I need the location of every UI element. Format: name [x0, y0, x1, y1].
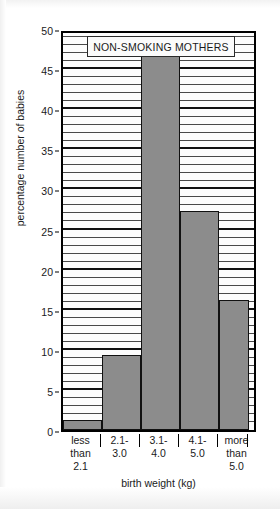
y-axis-ticks: 05101520253035404550 [28, 31, 59, 432]
x-category-line: 2.1- [100, 434, 139, 447]
x-category-line: 4.0 [139, 447, 178, 460]
y-tick-mark [55, 351, 59, 352]
bar [141, 53, 180, 430]
y-tick-label: 35 [41, 145, 53, 157]
bar [63, 420, 102, 430]
x-category-line: 5.0 [217, 460, 256, 473]
plot-area: NON-SMOKING MOTHERS [61, 31, 256, 432]
y-tick-label: 45 [41, 65, 53, 77]
x-category-line: than [61, 447, 100, 460]
y-tick-label: 40 [41, 105, 53, 117]
y-tick-mark [55, 71, 59, 72]
y-tick-label: 30 [41, 185, 53, 197]
chart-title: NON-SMOKING MOTHERS [87, 36, 235, 57]
y-tick-label: 10 [41, 346, 53, 358]
x-category-label: 4.1-5.0 [178, 434, 217, 460]
y-tick-label: 5 [47, 386, 53, 398]
y-tick-mark [55, 31, 59, 32]
y-tick-label: 50 [41, 25, 53, 37]
x-category-line: more [217, 434, 256, 447]
x-axis-title: birth weight (kg) [61, 477, 256, 489]
x-category-line: 3.1- [139, 434, 178, 447]
y-tick-label: 15 [41, 306, 53, 318]
x-category-line: 2.1 [61, 460, 100, 473]
x-category-line: 3.0 [100, 447, 139, 460]
y-tick-label: 25 [41, 226, 53, 238]
y-tick-label: 0 [47, 426, 53, 438]
bar [102, 355, 141, 430]
scan-edge-bottom [0, 487, 280, 509]
bar-series [63, 33, 254, 430]
x-category-label: morethan5.0 [217, 434, 256, 473]
y-tick-mark [55, 311, 59, 312]
x-category-label: 3.1-4.0 [139, 434, 178, 460]
x-category-line: 4.1- [178, 434, 217, 447]
y-tick-label: 20 [41, 266, 53, 278]
y-tick-mark [55, 432, 59, 433]
x-axis-divider [217, 434, 218, 447]
scan-edge-top [0, 0, 280, 8]
y-tick-mark [55, 191, 59, 192]
y-axis-title: percentage number of babies [14, 78, 26, 238]
x-category-label: 2.1-3.0 [100, 434, 139, 460]
y-tick-mark [55, 231, 59, 232]
x-category-line: 5.0 [178, 447, 217, 460]
x-axis-divider [139, 434, 140, 447]
x-category-line: less [61, 434, 100, 447]
y-tick-mark [55, 391, 59, 392]
y-tick-mark [55, 271, 59, 272]
scan-edge-left [0, 0, 6, 509]
x-axis-divider [100, 434, 101, 447]
bar [180, 211, 219, 430]
x-axis-divider [247, 434, 248, 447]
y-tick-mark [55, 151, 59, 152]
x-category-line: than [217, 447, 256, 460]
chart-figure: percentage number of babies 051015202530… [0, 0, 280, 509]
bar [219, 300, 249, 430]
y-tick-mark [55, 111, 59, 112]
x-axis-divider [178, 434, 179, 447]
x-category-label: lessthan2.1 [61, 434, 100, 473]
